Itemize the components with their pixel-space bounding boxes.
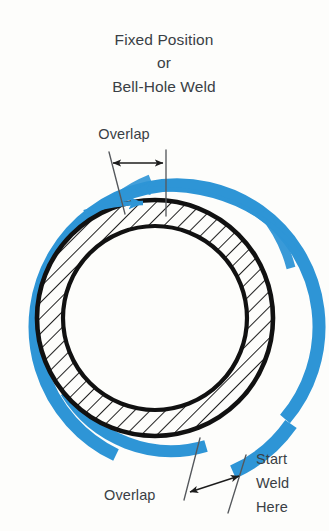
start-weld-line-2: Weld bbox=[256, 475, 289, 491]
welding-diagram-figure: Fixed Position or Bell-Hole Weld bbox=[0, 0, 329, 531]
title-line-3: Bell-Hole Weld bbox=[112, 78, 216, 95]
start-weld-annotation: Start Weld Here bbox=[256, 451, 289, 515]
diagram-canvas: Fixed Position or Bell-Hole Weld bbox=[0, 0, 329, 531]
title-line-1: Fixed Position bbox=[115, 31, 214, 48]
overlap-bottom-dimension-arrow bbox=[190, 476, 239, 492]
title-line-2: or bbox=[157, 54, 171, 71]
overlap-top-label: Overlap bbox=[98, 126, 149, 142]
overlap-bottom-label: Overlap bbox=[104, 487, 155, 503]
diagram-title: Fixed Position or Bell-Hole Weld bbox=[112, 31, 216, 95]
start-weld-line-1: Start bbox=[256, 451, 287, 467]
start-weld-line-3: Here bbox=[256, 499, 288, 515]
